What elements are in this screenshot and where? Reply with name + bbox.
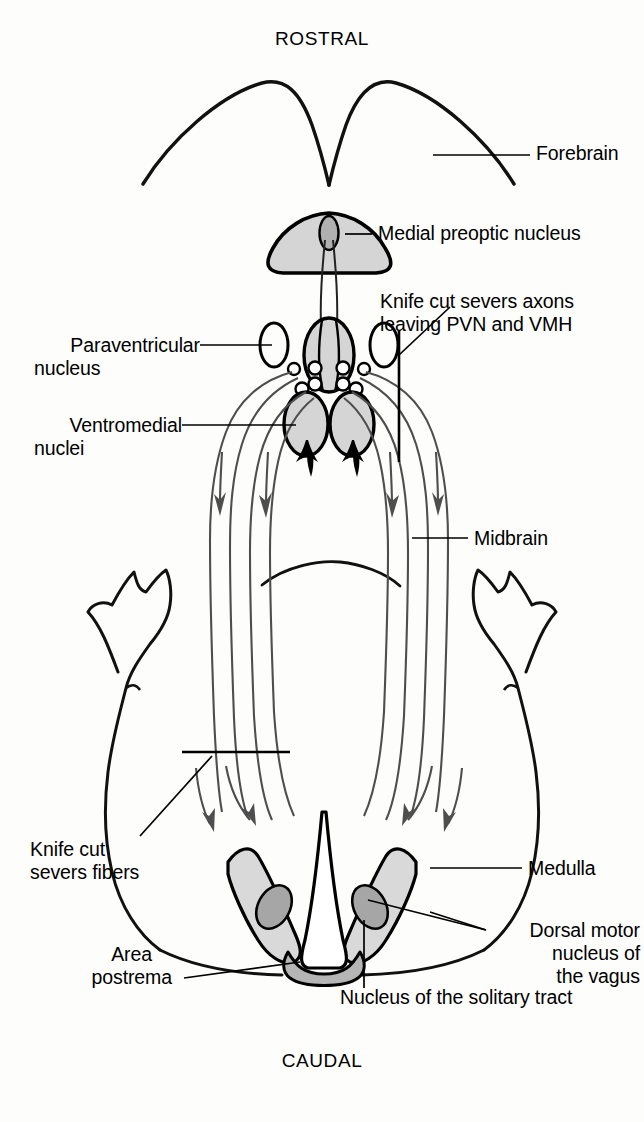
fiber-arrowheads-mid (214, 492, 444, 518)
obex-midline-spike (302, 812, 347, 968)
ventromedial-nuclei-shape (284, 392, 374, 477)
label-paraventricular-line1: Paraventricular (0, 334, 200, 357)
label-ventromedial-line2: nuclei (34, 437, 84, 460)
label-knife-cut-fibers-line2: severs fibers (30, 861, 139, 884)
label-ventromedial-line1: Ventromedial (0, 414, 182, 437)
forebrain-outline (143, 82, 514, 185)
label-medulla: Medulla (528, 857, 596, 880)
label-forebrain: Forebrain (536, 142, 619, 165)
fiber-arrow-stems-low (196, 766, 462, 824)
label-medial-preoptic-nucleus: Medial preoptic nucleus (378, 222, 581, 245)
label-dorsal-motor-line2: nucleus of (394, 942, 640, 965)
leader-lines (140, 155, 530, 988)
label-paraventricular-line2: nucleus (34, 357, 101, 380)
label-area-postrema-line1: Area (0, 943, 152, 966)
label-knife-cut-fibers-line1: Knife cut (30, 838, 105, 861)
label-knife-cut-axons-line1: Knife cut severs axons (380, 290, 574, 313)
diagram-canvas: ROSTRAL Forebrain Medial preoptic nucleu… (0, 0, 644, 1122)
label-knife-cut-axons-line2: leaving PVN and VMH (380, 313, 572, 336)
label-midbrain: Midbrain (474, 527, 548, 550)
orientation-label-caudal: CAUDAL (232, 1050, 412, 1072)
label-dorsal-motor-line1: Dorsal motor (394, 919, 640, 942)
label-dorsal-motor-line3: the vagus (394, 965, 640, 988)
label-area-postrema-line2: postrema (0, 966, 172, 989)
label-nucleus-solitary-tract: Nucleus of the solitary tract (340, 986, 572, 1009)
brainstem-outline (262, 562, 400, 586)
orientation-label-rostral: ROSTRAL (232, 28, 412, 50)
medial-preoptic-nucleus-shape (268, 213, 391, 273)
